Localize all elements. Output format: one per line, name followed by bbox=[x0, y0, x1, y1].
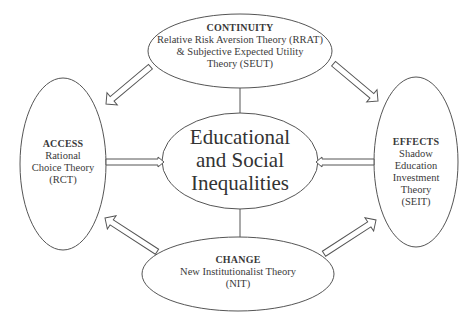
arrow-change-to-access bbox=[101, 211, 162, 258]
effects-line-4: Theory bbox=[376, 184, 456, 196]
arrow-continuity-to-effects bbox=[328, 58, 383, 108]
arrow-effects-to-center bbox=[316, 157, 374, 167]
continuity-title: CONTINUITY bbox=[148, 22, 332, 34]
access-line-2: Choice Theory bbox=[22, 162, 104, 174]
access-line-3: (RCT) bbox=[22, 174, 104, 186]
change-line-1: New Institutionalist Theory bbox=[142, 266, 334, 278]
effects-title: EFFECTS bbox=[376, 136, 456, 148]
effects-node: EFFECTS Shadow Education Investment Theo… bbox=[376, 136, 456, 208]
access-node: ACCESS Rational Choice Theory (RCT) bbox=[22, 138, 104, 186]
access-line-1: Rational bbox=[22, 150, 104, 162]
change-line-2: (NIT) bbox=[142, 278, 334, 290]
arrow-access-to-center bbox=[106, 157, 164, 167]
theory-diagram: CONTINUITY Relative Risk Aversion Theory… bbox=[0, 0, 476, 322]
center-line-3: Inequalities bbox=[164, 172, 316, 195]
change-title: CHANGE bbox=[142, 254, 334, 266]
effects-line-5: (SEIT) bbox=[376, 196, 456, 208]
continuity-line-2: & Subjective Expected Utility bbox=[148, 46, 332, 58]
access-title: ACCESS bbox=[22, 138, 104, 150]
continuity-line-3: Theory (SEUT) bbox=[148, 58, 332, 70]
center-line-1: Educational bbox=[164, 126, 316, 149]
center-line-2: and Social bbox=[164, 149, 316, 172]
center-node: Educational and Social Inequalities bbox=[164, 126, 316, 195]
change-node: CHANGE New Institutionalist Theory (NIT) bbox=[142, 254, 334, 290]
continuity-node: CONTINUITY Relative Risk Aversion Theory… bbox=[148, 22, 332, 70]
effects-line-2: Education bbox=[376, 160, 456, 172]
effects-line-3: Investment bbox=[376, 172, 456, 184]
continuity-line-1: Relative Risk Aversion Theory (RRAT) bbox=[148, 34, 332, 46]
effects-line-1: Shadow bbox=[376, 148, 456, 160]
